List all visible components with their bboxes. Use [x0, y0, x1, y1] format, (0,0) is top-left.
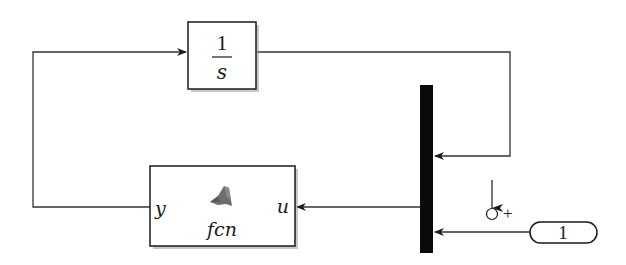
wire-integrator-to-mux[interactable]: [257, 52, 510, 156]
constant-block[interactable]: 1: [530, 222, 597, 243]
integrator-denominator: s: [217, 60, 227, 84]
sum-junction-annotation: +: [487, 180, 513, 223]
constant-value: 1: [558, 222, 568, 243]
junction-circle-icon: [487, 209, 498, 220]
integrator-block[interactable]: 1 s: [188, 22, 259, 92]
input-port-label-u: u: [277, 195, 289, 217]
sum-sign-label: +: [503, 204, 513, 223]
block-diagram-canvas: 1 s y u fcn + 1: [0, 0, 626, 265]
output-port-label-y: y: [154, 197, 166, 219]
mux-block[interactable]: [420, 85, 433, 253]
fcn-label: fcn: [205, 218, 237, 240]
matlab-function-block[interactable]: y u fcn: [150, 166, 298, 249]
integrator-numerator: 1: [217, 30, 228, 55]
